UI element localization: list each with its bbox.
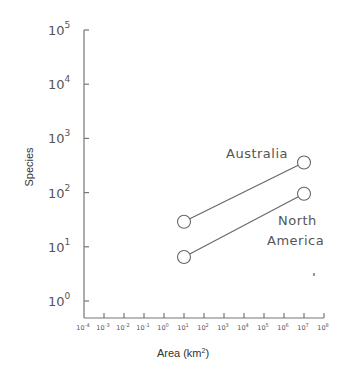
series-line bbox=[190, 165, 298, 219]
species-area-chart: 100101102103104105 10-410-310-210-110010… bbox=[0, 0, 345, 381]
x-tick-label: 10-1 bbox=[136, 322, 149, 332]
data-point-marker bbox=[298, 187, 311, 200]
x-tick-label: 102 bbox=[197, 322, 208, 332]
y-tick-label: 102 bbox=[48, 183, 70, 201]
x-tick-label: 108 bbox=[317, 322, 328, 332]
y-tick-label: 105 bbox=[48, 20, 70, 38]
x-tick-label: 10-4 bbox=[76, 322, 89, 332]
x-axis-title-tail: ) bbox=[205, 347, 209, 359]
x-tick-label: 10-2 bbox=[116, 322, 129, 332]
x-tick-label: 106 bbox=[277, 322, 288, 332]
y-axis-title: Species bbox=[23, 147, 35, 187]
axes bbox=[84, 30, 324, 318]
x-tick-label: 104 bbox=[237, 322, 248, 332]
label-north: North bbox=[278, 213, 317, 228]
x-axis-title: Area (km2) bbox=[157, 347, 209, 359]
y-tick-label: 101 bbox=[48, 237, 70, 255]
data-point-marker bbox=[178, 215, 191, 228]
x-tick-label: 10-3 bbox=[96, 322, 109, 332]
y-ticks: 100101102103104105 bbox=[48, 20, 89, 309]
y-tick-label: 104 bbox=[48, 74, 71, 92]
x-axis-title-base: Area (km bbox=[157, 347, 202, 359]
stray-mark bbox=[313, 273, 315, 276]
x-tick-label: 105 bbox=[257, 322, 268, 332]
x-ticks: 10-410-310-210-1100101102103104105106107… bbox=[76, 313, 328, 332]
data-point-marker bbox=[178, 250, 191, 263]
y-tick-label: 100 bbox=[48, 291, 71, 309]
label-america: America bbox=[267, 233, 324, 248]
x-tick-label: 100 bbox=[157, 322, 168, 332]
x-tick-label: 101 bbox=[177, 322, 188, 332]
x-tick-label: 107 bbox=[297, 322, 308, 332]
y-tick-label: 103 bbox=[48, 128, 70, 146]
data-point-marker bbox=[298, 156, 311, 169]
x-tick-label: 103 bbox=[217, 322, 228, 332]
label-australia: Australia bbox=[226, 146, 288, 161]
